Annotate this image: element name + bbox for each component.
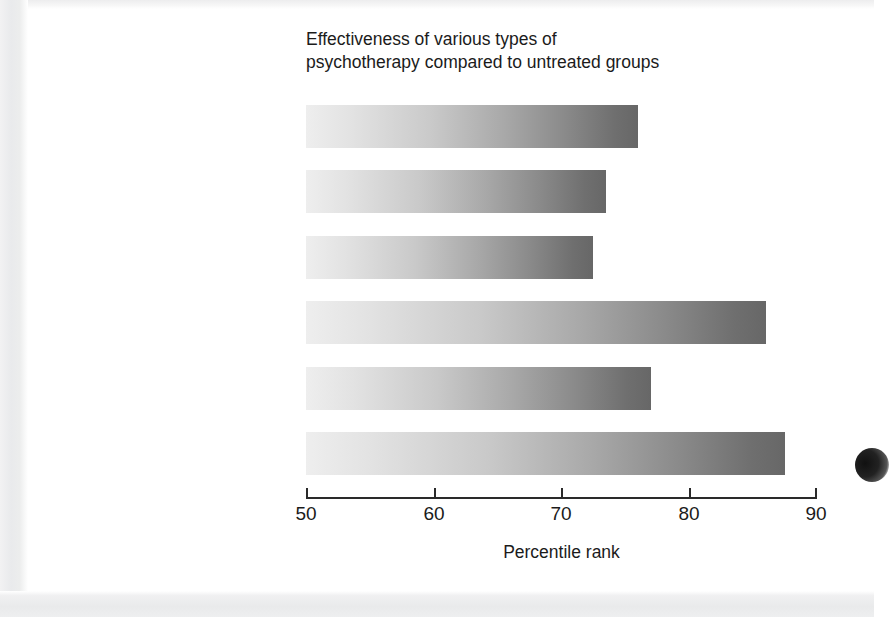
- page-artifact-blot: [855, 448, 889, 482]
- bar-cognitive-behavioral: [306, 432, 785, 475]
- x-tick: [561, 488, 563, 498]
- bar-gestalt: [306, 170, 606, 213]
- bar-behavior-modification: [306, 367, 651, 410]
- bar-systematic-desensitization: [306, 301, 766, 344]
- x-tick-label: 80: [678, 503, 699, 525]
- x-tick: [815, 488, 817, 498]
- x-tick: [306, 488, 308, 498]
- page-edge-bottom: [0, 591, 874, 617]
- x-tick-label: 60: [423, 503, 444, 525]
- x-axis: [306, 497, 817, 499]
- bar-client-oriented: [306, 236, 593, 279]
- x-tick-label: 70: [550, 503, 571, 525]
- x-tick: [434, 488, 436, 498]
- bar-chart: Effectiveness of various types of psycho…: [0, 0, 874, 590]
- x-tick: [689, 488, 691, 498]
- x-tick-label: 90: [805, 503, 826, 525]
- bar-psychodynamic: [306, 105, 638, 148]
- plot-area: Psychodynamic Gestalt Client-oriented: [0, 0, 874, 590]
- x-tick-label: 50: [295, 503, 316, 525]
- x-axis-label: Percentile rank: [306, 542, 817, 563]
